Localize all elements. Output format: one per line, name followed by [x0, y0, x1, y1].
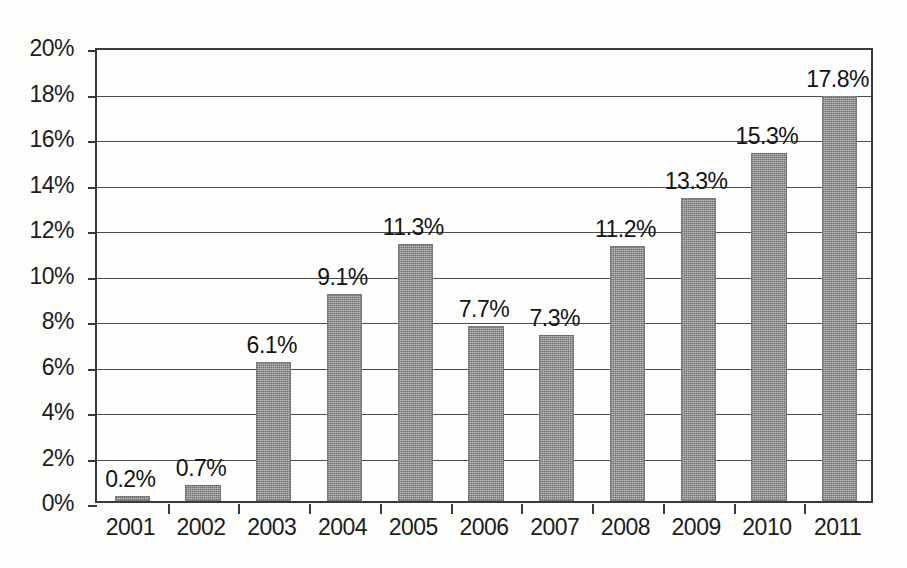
y-axis-tick	[88, 141, 97, 143]
y-axis-tick	[88, 505, 97, 507]
x-axis-tick	[238, 504, 240, 514]
y-axis-tick	[88, 96, 97, 98]
y-axis-tick-label: 14%	[0, 174, 74, 197]
bar-data-label: 17.8%	[802, 68, 873, 91]
y-axis-tick	[88, 414, 97, 416]
x-axis-category-label: 2001	[95, 516, 166, 539]
bar-chart: 0%2%4%6%8%10%12%14%16%18%20% 0.2%0.7%6.1…	[0, 0, 907, 568]
x-axis-category-label: 2003	[236, 516, 307, 539]
x-axis-tick	[168, 504, 170, 514]
bar	[822, 96, 857, 501]
bar-data-label: 7.3%	[519, 307, 590, 330]
bar	[751, 153, 786, 501]
y-axis-tick-label: 12%	[0, 219, 74, 242]
x-axis-category-label: 2008	[590, 516, 661, 539]
x-axis-category-label: 2009	[661, 516, 732, 539]
x-axis-tick	[663, 504, 665, 514]
bar-data-label: 9.1%	[307, 266, 378, 289]
y-axis-tick-label: 10%	[0, 265, 74, 288]
y-axis-tick-label: 8%	[0, 310, 74, 333]
x-axis-tick	[451, 504, 453, 514]
bar-data-label: 11.3%	[378, 216, 449, 239]
y-axis-tick	[88, 187, 97, 189]
y-axis-tick-label: 20%	[0, 37, 74, 60]
y-axis-tick	[88, 460, 97, 462]
bar-data-label: 6.1%	[236, 334, 307, 357]
x-axis-category-label: 2011	[802, 516, 873, 539]
bar	[681, 198, 716, 501]
bar-data-label: 11.2%	[590, 218, 661, 241]
plot-area	[95, 48, 873, 503]
x-axis-category-label: 2005	[378, 516, 449, 539]
y-axis-tick-label: 2%	[0, 447, 74, 470]
bar	[398, 244, 433, 501]
bar-data-label: 0.2%	[95, 468, 166, 491]
y-axis-tick-label: 4%	[0, 401, 74, 424]
y-axis-tick	[88, 278, 97, 280]
y-axis-tick	[88, 50, 97, 52]
bar-data-label: 13.3%	[661, 170, 732, 193]
bar	[256, 362, 291, 501]
bar	[539, 335, 574, 501]
y-axis-tick	[88, 369, 97, 371]
x-axis-tick	[592, 504, 594, 514]
bar	[327, 294, 362, 501]
x-axis-tick	[804, 504, 806, 514]
x-axis-category-label: 2010	[732, 516, 803, 539]
y-axis-tick	[88, 323, 97, 325]
x-axis-tick	[380, 504, 382, 514]
bar	[115, 496, 150, 501]
y-axis-tick-label: 16%	[0, 128, 74, 151]
bar-data-label: 7.7%	[449, 298, 520, 321]
x-axis-tick	[521, 504, 523, 514]
bar-data-label: 15.3%	[732, 125, 803, 148]
y-axis-tick-label: 18%	[0, 83, 74, 106]
bar	[185, 485, 220, 501]
x-axis-category-label: 2002	[166, 516, 237, 539]
x-axis-tick	[734, 504, 736, 514]
x-axis-category-label: 2004	[307, 516, 378, 539]
x-axis-category-label: 2006	[449, 516, 520, 539]
x-axis-category-label: 2007	[519, 516, 590, 539]
y-axis-tick-label: 0%	[0, 492, 74, 515]
bar-data-label: 0.7%	[166, 457, 237, 480]
y-axis-tick	[88, 232, 97, 234]
gridline	[97, 96, 871, 97]
x-axis-tick	[309, 504, 311, 514]
bar	[468, 326, 503, 501]
y-axis-tick-label: 6%	[0, 356, 74, 379]
bar	[610, 246, 645, 501]
